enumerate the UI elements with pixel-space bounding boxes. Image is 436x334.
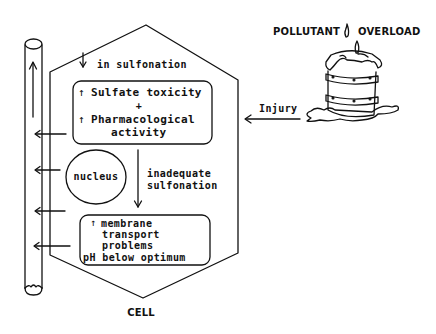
overload-label: OVERLOAD [358, 27, 420, 37]
pollutant-label: POLLUTANT [273, 27, 340, 37]
in-sulfonation-label: in sulfonation [97, 60, 187, 70]
membrane-label: membrane [101, 219, 152, 229]
pollutant-candle-icon [307, 41, 398, 121]
nucleus-label: nucleus [66, 172, 126, 182]
ph-below-optimum-label: pH below optimum [83, 253, 186, 263]
membrane-arrow: ↑ [90, 218, 96, 228]
plus-sign: + [133, 101, 145, 111]
diagram-canvas [0, 0, 436, 334]
activity-label: activity [111, 127, 166, 138]
sulfate-toxicity-label: Sulfate toxicity [91, 87, 202, 98]
injury-label: Injury [259, 104, 298, 114]
transport-label: transport [102, 230, 160, 240]
inadequate-label: inadequate [147, 169, 211, 179]
pharmacological-label: Pharmacological [91, 114, 195, 125]
cell-label: CELL [121, 308, 161, 318]
efflux-arrows [34, 131, 70, 250]
pharmacological-arrow: ↑ [78, 114, 85, 125]
sulfate-toxicity-arrow: ↑ [78, 87, 85, 98]
sulfonation-label: sulfonation [147, 181, 218, 191]
problems-label: problems [102, 241, 153, 251]
flame-drop-icon [345, 24, 349, 37]
